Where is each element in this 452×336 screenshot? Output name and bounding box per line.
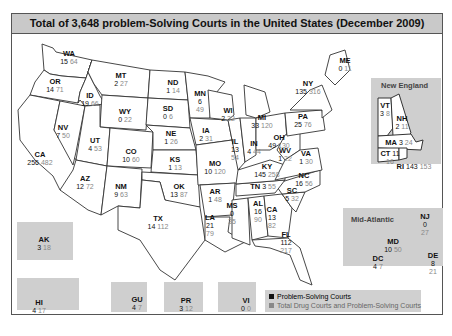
label-wi: WI2 32 — [215, 107, 241, 123]
label-pa: PA25 76 — [290, 113, 316, 129]
label-or: OR14 71 — [41, 78, 69, 94]
label-mn: MN649 — [190, 90, 210, 114]
label-ny: NY135 316 — [292, 80, 324, 96]
label-pr: PR3 12 — [175, 297, 197, 313]
label-la: LA2179 — [201, 214, 219, 238]
label-ma: MA 3 24 — [381, 139, 417, 147]
label-mt: MT2 27 — [108, 72, 134, 88]
label-me: ME0 11 — [335, 57, 355, 73]
label-ia: IA2 31 — [193, 127, 219, 143]
label-tx: TX14 112 — [143, 215, 173, 231]
legend-swatch-black — [269, 294, 274, 299]
label-mi: MI33 120 — [247, 114, 277, 130]
label-ky: KY145 258 — [250, 163, 284, 179]
inset-title: Mid-Atlantic — [351, 215, 394, 224]
label-az: AZ12 72 — [72, 175, 98, 191]
legend-item-total: Total Drug Courts and Problem-Solving Co… — [269, 301, 417, 310]
label-dc: DC4 7 — [370, 255, 386, 271]
label-fl: FL112217 — [275, 231, 297, 255]
label-ok: OK13 87 — [166, 183, 192, 199]
label-wy: WY0 22 — [112, 108, 138, 124]
label-vi: VI0 0 — [237, 297, 255, 313]
label-ga: CA1382 — [262, 206, 282, 230]
label-vt: VT3 8 — [377, 102, 393, 118]
label-ne: NE1 26 — [158, 130, 184, 146]
label-wa: WA15 64 — [55, 50, 83, 66]
label-nj: NJ027 — [418, 213, 432, 237]
legend-item-ps: Problem-Solving Courts — [269, 292, 417, 301]
label-gu: GU4 7 — [128, 296, 146, 312]
label-nc: NC16 56 — [291, 172, 317, 188]
label-tn: TN 3 55 — [245, 183, 281, 191]
label-ak: AK3 18 — [33, 236, 55, 252]
label-nh: NH2 11 — [393, 115, 411, 131]
label-de: DE821 — [426, 252, 440, 276]
label-sd: SD0 6 — [155, 105, 181, 121]
label-ca: CA256 482 — [24, 151, 56, 167]
label-id: ID19 66 — [77, 92, 103, 108]
legend-swatch-gray — [269, 303, 274, 308]
label-hi: HI4 17 — [29, 299, 49, 315]
label-wv: WV1 22 — [274, 147, 296, 163]
label-mo: MO10 120 — [200, 160, 230, 176]
label-nm: NM9 63 — [108, 183, 134, 199]
label-sc: SC5 32 — [280, 187, 304, 203]
legend: Problem-Solving Courts Total Drug Courts… — [265, 290, 421, 312]
label-nd: ND1 14 — [160, 79, 186, 95]
label-ms: MS035 — [222, 202, 242, 226]
label-ri: RI 143 153 — [392, 163, 436, 171]
label-md: MD10 50 — [380, 238, 406, 254]
label-ut: UT4 53 — [82, 137, 108, 153]
label-va: VA1 30 — [294, 150, 318, 166]
label-ks: KS1 13 — [162, 156, 188, 172]
label-co: CO10 60 — [118, 148, 144, 164]
label-nv: NV7 50 — [50, 124, 76, 140]
